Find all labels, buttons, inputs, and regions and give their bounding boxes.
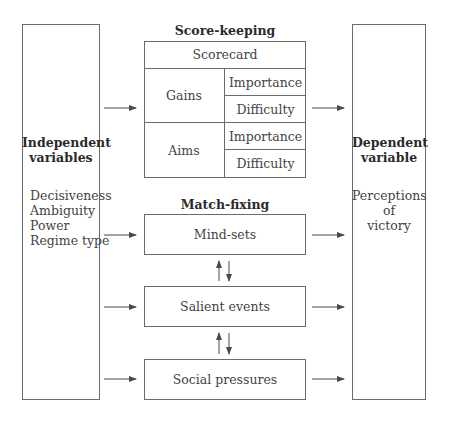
arrows-layer <box>0 0 450 421</box>
